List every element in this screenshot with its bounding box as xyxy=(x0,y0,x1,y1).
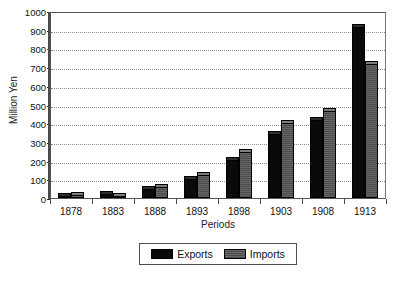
y-tick-label: 0 xyxy=(41,195,46,205)
x-tick-mark xyxy=(218,199,219,204)
bar-face xyxy=(113,196,126,198)
x-tick-mark xyxy=(302,199,303,204)
bar-group xyxy=(219,13,261,198)
y-tick-label: 100 xyxy=(30,176,46,186)
bar-imports-1878 xyxy=(71,192,84,198)
y-tick-label: 900 xyxy=(30,27,46,37)
bar-face xyxy=(239,152,252,198)
bar-face xyxy=(58,196,71,198)
bar-group xyxy=(261,13,303,198)
bar-face xyxy=(155,187,168,198)
legend-label-imports: Imports xyxy=(250,249,285,260)
x-tick-label: 1908 xyxy=(302,206,344,217)
x-tick-mark xyxy=(176,199,177,204)
bar-face xyxy=(352,27,365,198)
bar-group xyxy=(345,13,387,198)
x-tick-label: 1883 xyxy=(92,206,134,217)
bar-group xyxy=(51,13,93,198)
y-axis-tick-labels: 01002003004005006007008009001000 xyxy=(14,8,48,203)
bar-face xyxy=(365,64,378,198)
y-tick-label: 700 xyxy=(30,64,46,74)
x-tick-mark xyxy=(92,199,93,204)
bar-face xyxy=(100,194,113,198)
legend-entry-imports: Imports xyxy=(224,249,285,260)
bar-exports-1898 xyxy=(226,157,239,198)
bar-imports-1888 xyxy=(155,184,168,198)
x-tick-label: 1893 xyxy=(176,206,218,217)
y-tick-label: 300 xyxy=(30,139,46,149)
bar-group xyxy=(93,13,135,198)
legend-entry-exports: Exports xyxy=(151,249,213,260)
bar-face xyxy=(323,111,336,198)
x-tick-mark xyxy=(50,199,51,204)
bar-face xyxy=(142,189,155,198)
bar-face xyxy=(281,123,294,198)
bar-exports-1903 xyxy=(268,131,281,198)
legend-swatch-imports xyxy=(224,249,246,259)
x-tick-label: 1903 xyxy=(260,206,302,217)
bar-group xyxy=(303,13,345,198)
bar-exports-1908 xyxy=(310,117,323,198)
bar-imports-1893 xyxy=(197,172,210,198)
y-tick-label: 600 xyxy=(30,83,46,93)
y-tick-label: 1000 xyxy=(25,8,46,18)
plot-area xyxy=(50,12,386,199)
bar-exports-1913 xyxy=(352,24,365,198)
chart-figure: Million Yen 0100200300400500600700800900… xyxy=(0,0,398,282)
bar-exports-1878 xyxy=(58,193,71,198)
bar-face xyxy=(71,195,84,198)
y-tick-label: 200 xyxy=(30,158,46,168)
bar-face xyxy=(268,134,281,198)
x-tick-label: 1913 xyxy=(344,206,386,217)
bar-imports-1908 xyxy=(323,108,336,198)
bar-group xyxy=(177,13,219,198)
x-tick-mark xyxy=(260,199,261,204)
y-tick-label: 400 xyxy=(30,120,46,130)
x-tick-label: 1888 xyxy=(134,206,176,217)
bar-imports-1883 xyxy=(113,193,126,198)
x-axis-title: Periods xyxy=(50,219,386,230)
bar-imports-1903 xyxy=(281,120,294,198)
bar-face xyxy=(197,175,210,198)
plot-inner xyxy=(51,13,385,198)
bar-imports-1913 xyxy=(365,61,378,198)
chart-legend: Exports Imports xyxy=(139,243,297,265)
bar-exports-1888 xyxy=(142,186,155,198)
bar-face xyxy=(184,179,197,198)
legend-label-exports: Exports xyxy=(177,249,213,260)
bar-face xyxy=(226,160,239,198)
legend-swatch-exports xyxy=(151,249,173,259)
x-tick-mark xyxy=(344,199,345,204)
bar-imports-1898 xyxy=(239,149,252,198)
bar-face xyxy=(310,120,323,198)
x-tick-mark xyxy=(386,199,387,204)
x-tick-label: 1898 xyxy=(218,206,260,217)
y-tick-label: 500 xyxy=(30,102,46,112)
x-tick-label: 1878 xyxy=(50,206,92,217)
bar-group xyxy=(135,13,177,198)
bar-exports-1883 xyxy=(100,191,113,198)
y-tick-label: 800 xyxy=(30,45,46,55)
x-tick-mark xyxy=(134,199,135,204)
bar-exports-1893 xyxy=(184,176,197,198)
